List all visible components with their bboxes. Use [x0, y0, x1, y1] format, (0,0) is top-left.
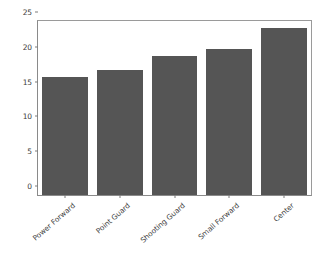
- y-axis-tick: 0: [27, 182, 38, 191]
- x-axis-tick-mark: [283, 195, 284, 198]
- y-axis-tick-label: 15: [23, 77, 35, 86]
- bar[interactable]: [261, 28, 307, 195]
- x-axis-tick-label: Shooting Guard: [138, 201, 186, 245]
- x-axis-tick-mark: [119, 195, 120, 198]
- bar-slot: [38, 21, 93, 195]
- bar-slot: [202, 21, 257, 195]
- bar[interactable]: [206, 49, 252, 195]
- plot-area: 0510152025 Power ForwardPoint GuardShoot…: [37, 20, 312, 196]
- bar-slot: [93, 21, 148, 195]
- x-axis-tick-mark: [174, 195, 175, 198]
- x-axis-tick-mark: [65, 195, 66, 198]
- bar[interactable]: [152, 56, 198, 195]
- y-axis-tick: 15: [23, 77, 38, 86]
- y-axis-tick: 20: [23, 42, 38, 51]
- bar[interactable]: [42, 77, 88, 195]
- x-axis-tick-mark: [229, 195, 230, 198]
- x-axis-tick-label: Small Forward: [196, 201, 241, 241]
- y-axis-tick: 10: [23, 112, 38, 121]
- y-axis-tick-label: 10: [23, 112, 35, 121]
- y-axis-tick: 25: [23, 8, 38, 17]
- y-axis-tick-label: 20: [23, 42, 35, 51]
- y-axis-tick-label: 0: [27, 182, 35, 191]
- x-axis-tick-label: Point Guard: [94, 201, 132, 235]
- bar-slot: [256, 21, 311, 195]
- y-axis-tick-label: 25: [23, 8, 35, 17]
- bar[interactable]: [97, 70, 143, 195]
- bar-slot: [147, 21, 202, 195]
- y-axis-tick: 5: [27, 147, 38, 156]
- x-axis-tick-label: Power Forward: [31, 201, 77, 243]
- bar-chart: 0510152025 Power ForwardPoint GuardShoot…: [0, 0, 329, 262]
- y-axis-tick-mark: [35, 12, 38, 13]
- bar-series: [38, 21, 311, 195]
- x-axis-tick-label: Center: [271, 201, 295, 224]
- y-axis-tick-label: 5: [27, 147, 35, 156]
